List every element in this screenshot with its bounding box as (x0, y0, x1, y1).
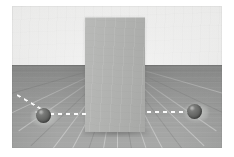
ball-right-highlight (190, 106, 195, 110)
ball-right (187, 104, 202, 119)
trajectory-left-segment (50, 113, 88, 115)
ball-left (36, 108, 51, 123)
barrier-texture (85, 17, 145, 132)
barrier (85, 17, 145, 132)
scene-viewport (12, 6, 222, 148)
barrier-top-edge (85, 17, 145, 18)
screenshot-root (0, 0, 234, 157)
trajectory-right-segment (147, 111, 189, 113)
ball-left-highlight (39, 110, 44, 114)
